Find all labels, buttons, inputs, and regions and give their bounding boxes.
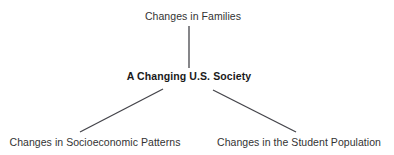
node-a-changing-us-society: A Changing U.S. Society — [127, 70, 251, 83]
connector-center-to-bottom-right — [213, 90, 296, 132]
diagram-canvas: Changes in Families A Changing U.S. Soci… — [0, 0, 394, 155]
node-changes-in-socioeconomic-patterns: Changes in Socioeconomic Patterns — [10, 136, 181, 149]
node-changes-in-families: Changes in Families — [145, 10, 241, 23]
connector-center-to-bottom-left — [80, 89, 163, 132]
node-changes-in-the-student-population: Changes in the Student Population — [217, 136, 381, 149]
